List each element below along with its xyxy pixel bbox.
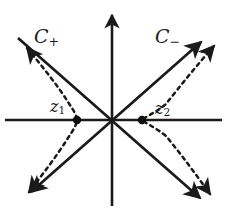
label-c-plus-subscript: + xyxy=(49,34,60,49)
label-z2-subscript: 2 xyxy=(163,106,170,118)
label-c-minus: C− xyxy=(155,27,180,48)
label-c-minus-subscript: − xyxy=(170,34,181,49)
label-c-plus-symbol: C xyxy=(34,25,49,47)
label-z1: z1 xyxy=(50,99,65,116)
asymptotes-group xyxy=(18,38,201,198)
label-c-plus: C+ xyxy=(34,27,59,48)
hyperbola-contour-figure: C+ C− z1 z2 xyxy=(0,0,232,220)
asymptote-sw-ne xyxy=(31,42,201,192)
point-z1 xyxy=(73,116,81,124)
label-z2: z2 xyxy=(155,101,170,118)
point-z2 xyxy=(138,116,146,124)
label-c-minus-symbol: C xyxy=(155,25,170,47)
asymptote-nw-se xyxy=(18,38,200,198)
label-z1-subscript: 1 xyxy=(58,104,65,116)
